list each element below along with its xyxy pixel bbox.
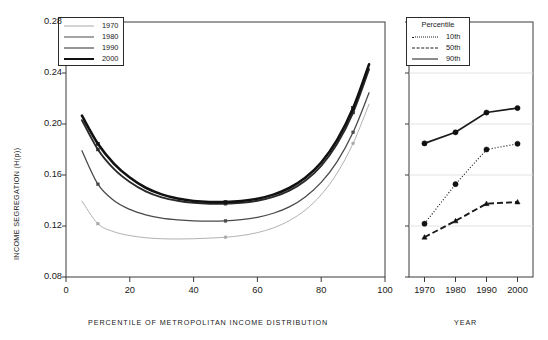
- legend-line-swatch-icon: [62, 32, 96, 42]
- left-series-marker: [96, 148, 99, 151]
- legend-title: Percentile: [410, 19, 466, 31]
- legend-item-2000[interactable]: 2000: [62, 53, 120, 64]
- left-series-marker: [224, 236, 227, 239]
- left-y-tick-label: 0.24: [26, 67, 62, 77]
- legend-item-label: 10th: [446, 32, 460, 41]
- left-series-line-2000: [82, 64, 369, 202]
- legend-line-swatch-icon: [410, 43, 440, 53]
- left-series-marker: [96, 142, 99, 145]
- left-y-tick-label: 0.28: [26, 16, 62, 26]
- left-series-line-1990: [82, 69, 369, 204]
- left-series-line-1970: [82, 104, 369, 239]
- left-y-tick-label: 0.20: [26, 118, 62, 128]
- left-series-group: [82, 64, 369, 239]
- left-x-tick-label: 0: [46, 285, 86, 295]
- right-series-marker: [515, 105, 520, 110]
- right-panel-x-axis-title: YEAR: [454, 318, 477, 327]
- right-x-tick-label: 2000: [498, 285, 538, 295]
- left-y-tick-label: 0.12: [26, 220, 62, 230]
- legend-line-swatch-icon: [410, 54, 440, 64]
- legend-item-label: 1990: [102, 43, 118, 52]
- right-series-line-10th: [425, 144, 518, 224]
- legend-item-label: 50th: [446, 43, 460, 52]
- left-panel-legend[interactable]: 1970198019902000: [58, 17, 124, 66]
- legend-item-1980[interactable]: 1980: [62, 31, 120, 42]
- legend-item-10th[interactable]: 10th: [410, 31, 466, 42]
- right-series-marker: [453, 130, 458, 135]
- right-series-marker: [515, 141, 520, 146]
- legend-item-label: 90th: [446, 54, 460, 63]
- left-series-marker: [352, 131, 355, 134]
- left-panel-x-axis-title: PERCENTILE OF METROPOLITAN INCOME DISTRI…: [88, 318, 328, 327]
- left-x-tick-label: 20: [110, 285, 150, 295]
- left-x-tick-label: 80: [301, 285, 341, 295]
- right-series-marker: [422, 141, 427, 146]
- left-series-marker: [224, 200, 227, 203]
- legend-item-1970[interactable]: 1970: [62, 20, 120, 31]
- right-series-marker: [484, 147, 489, 152]
- right-series-marker: [422, 221, 427, 226]
- legend-line-swatch-icon: [62, 21, 96, 31]
- left-y-tick-label: 0.08: [26, 271, 62, 281]
- left-series-marker: [224, 220, 227, 223]
- legend-item-label: 1980: [102, 32, 118, 41]
- left-panel-y-axis-title: INCOME SEGREGATION (H(p)): [12, 148, 21, 260]
- legend-item-label: 2000: [102, 54, 118, 63]
- left-series-marker: [97, 222, 100, 225]
- left-x-tick-label: 40: [174, 285, 214, 295]
- legend-line-swatch-icon: [62, 43, 96, 53]
- left-series-marker: [352, 142, 355, 145]
- left-y-tick-label: 0.16: [26, 169, 62, 179]
- left-x-tick-label: 60: [237, 285, 277, 295]
- left-x-tick-label: 100: [365, 285, 405, 295]
- legend-line-swatch-icon: [410, 32, 440, 42]
- left-series-marker: [352, 107, 355, 110]
- right-series-line-90th: [425, 108, 518, 143]
- legend-line-swatch-icon: [62, 54, 96, 64]
- figure-root: INCOME SEGREGATION (H(p)) PERCENTILE OF …: [0, 0, 548, 340]
- legend-item-1990[interactable]: 1990: [62, 42, 120, 53]
- right-series-line-50th: [425, 202, 518, 237]
- right-series-marker: [453, 182, 458, 187]
- legend-item-90th[interactable]: 90th: [410, 53, 466, 64]
- right-series-group: [422, 105, 520, 239]
- legend-item-label: 1970: [102, 21, 118, 30]
- legend-item-50th[interactable]: 50th: [410, 42, 466, 53]
- right-series-marker: [484, 110, 489, 115]
- right-panel-legend[interactable]: Percentile10th50th90th: [406, 17, 470, 66]
- left-series-marker: [97, 183, 100, 186]
